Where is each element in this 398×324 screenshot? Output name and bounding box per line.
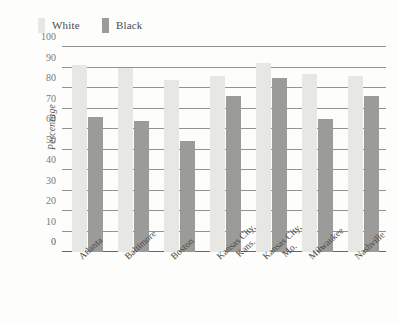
bar-white (302, 74, 317, 252)
bar-black (180, 141, 195, 252)
bar-white (210, 76, 225, 252)
bar-group (210, 47, 241, 252)
plot-area: 1009080706050403020100 (64, 47, 386, 252)
x-axis-labels: AtlantaBaltimoreBostonKansas City,Kans.K… (64, 254, 386, 324)
y-axis-tick-label: 40 (46, 155, 56, 165)
bar-black (364, 96, 379, 252)
y-axis-tick-label: 20 (46, 196, 56, 206)
bar-white (72, 65, 87, 252)
y-axis-tick-label: 90 (46, 53, 56, 63)
bar-group (302, 47, 333, 252)
y-axis-tick-label: 60 (46, 114, 56, 124)
bar-chart-figure: White Black Percentage 10090807060504030… (0, 0, 398, 324)
y-axis-tick-label: 30 (46, 176, 56, 186)
bar-group (348, 47, 379, 252)
bar-group (256, 47, 287, 252)
bar-black (88, 117, 103, 252)
bar-white (118, 68, 133, 253)
bar-black (272, 78, 287, 252)
legend-swatch-black (102, 18, 109, 33)
bar-white (164, 80, 179, 252)
bar-black (226, 96, 241, 252)
bar-group (118, 47, 149, 252)
y-axis-tick-label: 70 (46, 94, 56, 104)
y-axis-tick-label: 80 (46, 73, 56, 83)
y-axis-tick-label: 10 (46, 217, 56, 227)
legend-item-black: Black (102, 18, 143, 33)
y-axis-tick-label: 50 (46, 135, 56, 145)
y-axis-tick-label: 100 (41, 32, 56, 42)
legend-label-black: Black (116, 20, 143, 31)
y-axis-title: Percentage (47, 67, 57, 187)
bar-group (164, 47, 195, 252)
bar-group (72, 47, 103, 252)
bar-white (256, 63, 271, 252)
bar-groups (64, 47, 386, 252)
y-axis-tick-label: 0 (51, 237, 56, 247)
legend-label-white: White (52, 20, 80, 31)
bar-white (348, 76, 363, 252)
